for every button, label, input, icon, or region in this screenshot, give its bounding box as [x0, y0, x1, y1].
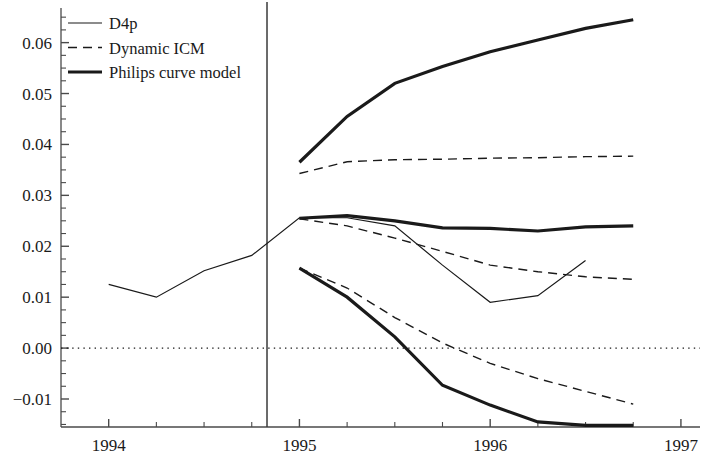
y-tick-label: 0.01 [22, 288, 52, 307]
legend-label: D4p [109, 14, 137, 33]
x-tick-label: 1997 [664, 436, 699, 455]
y-tick-label: 0.00 [22, 339, 52, 358]
line-chart-canvas: −0.010.000.010.020.030.040.050.06 199419… [0, 0, 728, 462]
y-tick-label: 0.03 [22, 186, 52, 205]
y-tick-label: 0.06 [22, 34, 52, 53]
legend-label: Dynamic ICM [109, 39, 205, 58]
legend-label: Philips curve model [109, 63, 241, 82]
chart-figure: −0.010.000.010.020.030.040.050.06 199419… [0, 0, 728, 462]
y-tick-label: −0.01 [13, 390, 52, 409]
y-tick-label: 0.02 [22, 237, 52, 256]
x-tick-label: 1994 [92, 436, 127, 455]
x-tick-label: 1996 [473, 436, 507, 455]
y-tick-label: 0.04 [22, 135, 52, 154]
x-tick-label: 1995 [282, 436, 316, 455]
y-tick-label: 0.05 [22, 85, 52, 104]
